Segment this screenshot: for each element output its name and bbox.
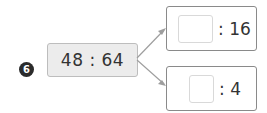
equivalent-ratio-box-2: : 4 xyxy=(166,66,257,111)
arrow-up-line xyxy=(137,30,164,58)
arrow-down-line xyxy=(137,60,164,84)
equivalent-ratio-box-1: : 16 xyxy=(166,6,257,51)
answer-blank-2[interactable] xyxy=(189,75,214,103)
ratio-term-2: : 4 xyxy=(219,79,241,99)
ratio-term-1: : 16 xyxy=(218,19,251,39)
arrow-up-head-icon xyxy=(158,28,166,35)
answer-blank-1[interactable] xyxy=(178,15,213,43)
arrow-down-head-icon xyxy=(158,80,166,86)
